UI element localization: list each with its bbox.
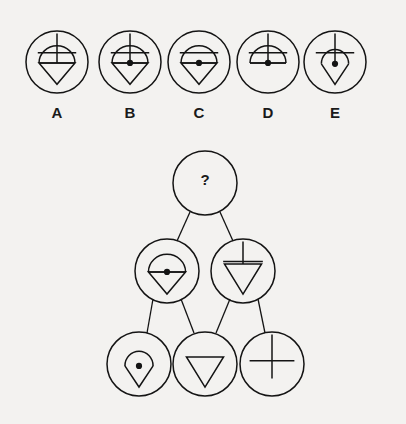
pyramid-apex-question-mark: ? bbox=[200, 171, 209, 188]
option-a-label: A bbox=[52, 104, 63, 121]
option-c-label: C bbox=[194, 104, 205, 121]
puzzle-canvas: ABCDE ? bbox=[0, 0, 406, 424]
option-e-label: E bbox=[330, 104, 340, 121]
pyramid-bottom-left-center-dot bbox=[136, 363, 142, 369]
puzzle-root: ABCDE ? bbox=[0, 0, 406, 424]
pyramid-middle-left-center-dot bbox=[164, 269, 170, 275]
option-b-label: B bbox=[125, 104, 136, 121]
option-d-center-dot bbox=[265, 60, 271, 66]
option-d-label: D bbox=[263, 104, 274, 121]
option-e-center-dot bbox=[332, 61, 338, 67]
option-c-center-dot bbox=[196, 60, 202, 66]
option-b-center-dot bbox=[127, 60, 133, 66]
